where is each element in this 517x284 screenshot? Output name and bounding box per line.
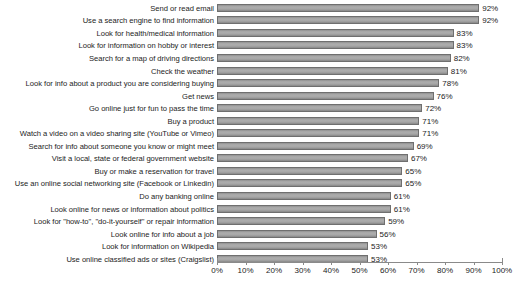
- bar: [217, 4, 479, 12]
- bar-value-label: 61%: [391, 204, 410, 213]
- category-label: Search for a map of driving directions: [89, 53, 214, 62]
- bar-value-label: 61%: [391, 192, 410, 201]
- bar-row: Search for info about someone you know o…: [0, 140, 517, 153]
- plot-area: Send or read email92%Use a search engine…: [0, 0, 517, 284]
- bar-row: Watch a video on a video sharing site (Y…: [0, 127, 517, 140]
- category-label: Buy a product: [167, 116, 214, 125]
- bar-value-label: 83%: [454, 41, 473, 50]
- category-label: Get news: [182, 91, 214, 100]
- bar-row: Check the weather81%: [0, 64, 517, 77]
- bar-row: Look online for news or information abou…: [0, 202, 517, 215]
- x-axis-tick-label: 90%: [465, 266, 481, 276]
- bar-track: 83%: [217, 29, 502, 37]
- x-axis-tick-label: 30%: [294, 266, 310, 276]
- bar-track: 82%: [217, 54, 502, 62]
- bar-value-label: 78%: [439, 79, 458, 88]
- bar-row: Look for information on hobby or interes…: [0, 39, 517, 52]
- bar-row: Buy or make a reservation for travel65%: [0, 165, 517, 178]
- x-axis-tick: [303, 262, 304, 265]
- bar-row: Get news76%: [0, 89, 517, 102]
- bar-track: 53%: [217, 242, 502, 250]
- category-label: Look for health/medical information: [97, 28, 215, 37]
- bar-track: 59%: [217, 217, 502, 225]
- x-axis-tick: [388, 262, 389, 265]
- bar-row: Use an online social networking site (Fa…: [0, 177, 517, 190]
- x-axis-tick: [217, 262, 218, 265]
- bar: [217, 230, 377, 238]
- bar-track: 71%: [217, 117, 502, 125]
- bar: [217, 205, 391, 213]
- bar-track: 78%: [217, 79, 502, 87]
- x-axis-tick: [502, 262, 503, 265]
- bar-track: 69%: [217, 142, 502, 150]
- bar: [217, 154, 408, 162]
- bar-value-label: 59%: [385, 217, 404, 226]
- category-label: Look for info about a product you are co…: [26, 79, 214, 88]
- x-axis-tick-label: 10%: [237, 266, 253, 276]
- bar-track: 65%: [217, 179, 502, 187]
- bar: [217, 142, 414, 150]
- category-label: Visit a local, state or federal governme…: [52, 154, 214, 163]
- bar-row: Do any banking online61%: [0, 190, 517, 203]
- bar: [217, 192, 391, 200]
- bar-track: 81%: [217, 67, 502, 75]
- bar-row: Search for a map of driving directions82…: [0, 52, 517, 65]
- x-axis-tick: [246, 262, 247, 265]
- bar: [217, 79, 439, 87]
- x-axis-tick: [331, 262, 332, 265]
- bar: [217, 129, 419, 137]
- bar-value-label: 92%: [479, 16, 498, 25]
- bar: [217, 242, 368, 250]
- bar: [217, 179, 402, 187]
- bar-track: 56%: [217, 230, 502, 238]
- bar-value-label: 65%: [402, 179, 421, 188]
- bar: [217, 117, 419, 125]
- bar-track: 76%: [217, 92, 502, 100]
- bar: [217, 92, 434, 100]
- x-axis-tick-label: 50%: [351, 266, 367, 276]
- category-label: Use a search engine to find information: [83, 16, 214, 25]
- bar-track: 61%: [217, 192, 502, 200]
- category-label: Look online for info about a job: [111, 229, 214, 238]
- bar-track: 92%: [217, 16, 502, 24]
- bar-value-label: 65%: [402, 166, 421, 175]
- bar-row: Use online classified ads or sites (Crai…: [0, 253, 517, 266]
- bar: [217, 167, 402, 175]
- bar-track: 67%: [217, 154, 502, 162]
- category-label: Use online classified ads or sites (Crai…: [66, 254, 214, 263]
- bar-row: Go online just for fun to pass the time7…: [0, 102, 517, 115]
- bar-value-label: 82%: [451, 53, 470, 62]
- x-axis-tick: [417, 262, 418, 265]
- bar: [217, 16, 479, 24]
- category-label: Check the weather: [151, 66, 214, 75]
- bar: [217, 29, 454, 37]
- bar-value-label: 67%: [408, 154, 427, 163]
- x-axis-tick-label: 100%: [492, 266, 512, 276]
- x-axis-tick: [445, 262, 446, 265]
- bar-value-label: 71%: [419, 116, 438, 125]
- bar: [217, 41, 454, 49]
- bar: [217, 217, 385, 225]
- x-axis-tick: [474, 262, 475, 265]
- bar-row: Buy a product71%: [0, 114, 517, 127]
- bar-value-label: 72%: [422, 104, 441, 113]
- category-label: Do any banking online: [139, 192, 214, 201]
- x-axis-tick-label: 70%: [408, 266, 424, 276]
- bar-value-label: 81%: [448, 66, 467, 75]
- category-label: Go online just for fun to pass the time: [89, 104, 214, 113]
- bar-row: Use a search engine to find information9…: [0, 14, 517, 27]
- category-label: Look online for news or information abou…: [50, 204, 214, 213]
- x-axis-tick-label: 60%: [380, 266, 396, 276]
- bar: [217, 54, 451, 62]
- horizontal-bar-chart: Send or read email92%Use a search engine…: [0, 0, 517, 284]
- bar-row: Visit a local, state or federal governme…: [0, 152, 517, 165]
- bar: [217, 104, 422, 112]
- bar-row: Look for information on Wikipedia53%: [0, 240, 517, 253]
- bar-row: Send or read email92%: [0, 2, 517, 15]
- bar-row: Look for health/medical information83%: [0, 27, 517, 40]
- x-axis-tick-label: 80%: [437, 266, 453, 276]
- bar-value-label: 53%: [368, 242, 387, 251]
- x-axis-tick-label: 40%: [323, 266, 339, 276]
- bar-row: Look for "how-to", "do-it-yourself" or r…: [0, 215, 517, 228]
- category-label: Look for information on hobby or interes…: [78, 41, 214, 50]
